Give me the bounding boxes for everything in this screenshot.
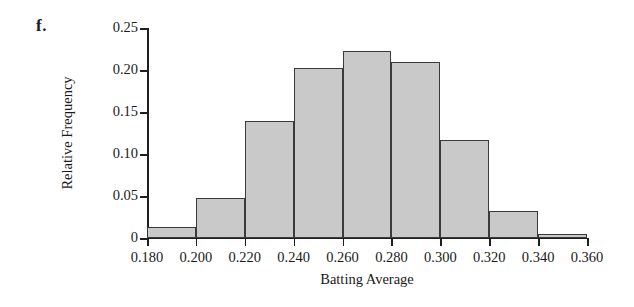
x-tick-label-7: 0.320 [473, 249, 506, 266]
bar-0.200-0.220 [196, 198, 245, 238]
x-tick-mark-9 [587, 238, 589, 246]
x-tick-mark-5 [391, 238, 393, 246]
bar-0.320-0.340 [489, 211, 538, 238]
x-tick-label-8: 0.340 [522, 249, 555, 266]
x-tick-label-6: 0.300 [424, 249, 457, 266]
x-tick-mark-1 [196, 238, 198, 246]
y-tick-label: 0.05 [113, 187, 138, 204]
histogram-figure: f. 00.050.100.150.200.25 0.1800.2000.220… [0, 0, 634, 307]
y-tick-mark [140, 196, 148, 198]
x-tick-label-9: 0.360 [571, 249, 604, 266]
bar-0.220-0.240 [245, 121, 294, 238]
y-tick-label: 0 [131, 229, 138, 246]
bar-0.340-0.360 [538, 234, 587, 238]
x-axis-title: Batting Average [147, 271, 587, 288]
y-tick-label: 0.25 [113, 19, 138, 36]
x-tick-mark-7 [489, 238, 491, 246]
x-tick-mark-4 [343, 238, 345, 246]
bar-0.300-0.320 [440, 140, 489, 238]
y-tick-mark [140, 28, 148, 30]
x-tick-label-1: 0.200 [180, 249, 213, 266]
x-tick-label-0: 0.180 [131, 249, 164, 266]
x-tick-mark-2 [245, 238, 247, 246]
y-tick-label: 0.10 [113, 145, 138, 162]
y-tick-label: 0.20 [113, 61, 138, 78]
bar-0.260-0.280 [343, 51, 392, 238]
x-tick-mark-8 [538, 238, 540, 246]
part-label: f. [36, 16, 47, 36]
y-tick-label: 0.15 [113, 103, 138, 120]
plot-area: 00.050.100.150.200.25 0.1800.2000.2200.2… [147, 28, 587, 238]
x-tick-mark-0 [147, 238, 149, 246]
y-tick-mark [140, 154, 148, 156]
x-tick-label-2: 0.220 [228, 249, 261, 266]
x-tick-label-5: 0.280 [375, 249, 408, 266]
y-tick-mark [140, 112, 148, 114]
bar-0.180-0.200 [147, 227, 196, 238]
y-axis-line [147, 28, 149, 238]
y-axis-title: Relative Frequency [59, 28, 76, 238]
bar-0.280-0.300 [391, 62, 440, 238]
x-tick-label-4: 0.260 [326, 249, 359, 266]
x-tick-label-3: 0.240 [277, 249, 310, 266]
bar-0.240-0.260 [294, 68, 343, 238]
x-tick-mark-6 [440, 238, 442, 246]
y-tick-mark [140, 70, 148, 72]
x-tick-mark-3 [294, 238, 296, 246]
